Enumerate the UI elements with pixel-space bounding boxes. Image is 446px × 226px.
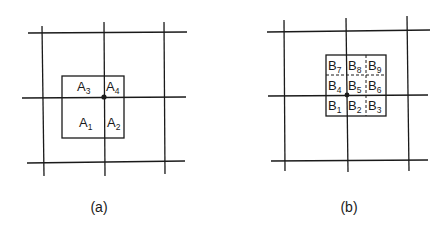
grid-line-vertical bbox=[164, 22, 165, 174]
cell-label: B8 bbox=[348, 58, 362, 75]
cell-label: B2 bbox=[348, 98, 362, 115]
panel-a: A3 A4 A1 A2 (a) bbox=[22, 22, 187, 215]
grid-line-vertical bbox=[407, 16, 409, 171]
cell-label: A1 bbox=[79, 115, 93, 132]
cell-label: B5 bbox=[348, 78, 362, 95]
grid-line-vertical bbox=[42, 26, 44, 176]
panel-caption: (a) bbox=[90, 199, 107, 215]
grid-line-horizontal bbox=[267, 30, 430, 32]
cell-label: B7 bbox=[328, 58, 342, 75]
cell-label: A2 bbox=[107, 115, 121, 132]
cell-label: B1 bbox=[328, 98, 342, 115]
cell-label: B9 bbox=[368, 58, 382, 75]
diagram-canvas: A3 A4 A1 A2 (a) B7 B8 B9 B4 B5 B6 B1 B2 … bbox=[0, 0, 446, 226]
grid-node-dot bbox=[345, 93, 350, 98]
cell-label: A3 bbox=[77, 79, 91, 96]
panel-caption: (b) bbox=[340, 199, 357, 215]
grid-line-horizontal bbox=[28, 32, 187, 33]
grid-line-horizontal bbox=[27, 161, 185, 163]
grid-node-dot bbox=[101, 94, 106, 99]
panel-b: B7 B8 B9 B4 B5 B6 B1 B2 B3 (b) bbox=[267, 16, 430, 215]
cell-label: B4 bbox=[328, 78, 342, 95]
cell-label: A4 bbox=[106, 79, 120, 96]
cell-label: B6 bbox=[368, 78, 382, 95]
cell-label: B3 bbox=[368, 98, 382, 115]
grid-line-horizontal bbox=[271, 160, 428, 161]
